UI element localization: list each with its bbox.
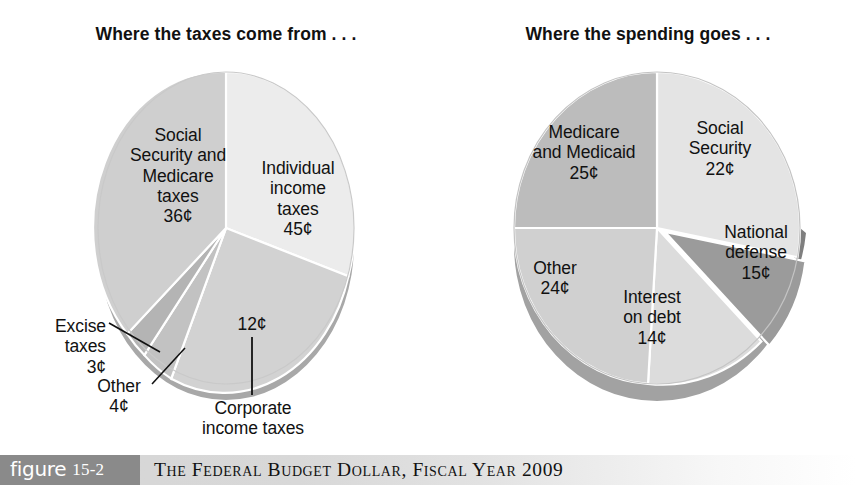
figure-container: Where the taxes come from . . . Where th… (0, 0, 856, 500)
right-label-social-security: Social Security 22¢ (668, 118, 772, 179)
left-callout-corporate-income-taxes: Corporate income taxes (166, 398, 340, 439)
figure-caption-text: The Federal Budget Dollar, Fiscal Year 2… (140, 455, 856, 485)
left-leader-line-excise (109, 323, 160, 352)
figure-number-box: figure 15-2 (0, 455, 140, 485)
left-slice-corporate-income-taxes (171, 228, 348, 393)
figure-caption-bar: figure 15-2 The Federal Budget Dollar, F… (0, 455, 856, 485)
left-leader-line-other (152, 348, 185, 384)
left-label-corporate-value: 12¢ (212, 314, 292, 334)
left-label-individual-income-taxes: Individual income taxes 45¢ (238, 158, 358, 239)
figure-label-word: figure (10, 459, 66, 479)
right-label-national-defense: National defense 15¢ (700, 222, 812, 283)
left-slice-excise-taxes (127, 228, 226, 355)
right-label-medicare-medicaid: Medicare and Medicaid 25¢ (508, 122, 660, 183)
left-slice-other (144, 228, 226, 379)
left-callout-excise-taxes: Excise taxes 3¢ (6, 316, 106, 377)
left-callout-other: Other 4¢ (84, 376, 154, 417)
right-label-other: Other 24¢ (510, 258, 600, 299)
right-label-interest-on-debt: Interest on debt 14¢ (602, 287, 702, 348)
right-panel-title: Where the spending goes . . . (440, 24, 856, 45)
figure-number: 15-2 (72, 460, 104, 480)
left-panel-title: Where the taxes come from . . . (0, 24, 452, 45)
left-label-social-security-medicare-taxes: Social Security and Medicare taxes 36¢ (108, 125, 248, 226)
